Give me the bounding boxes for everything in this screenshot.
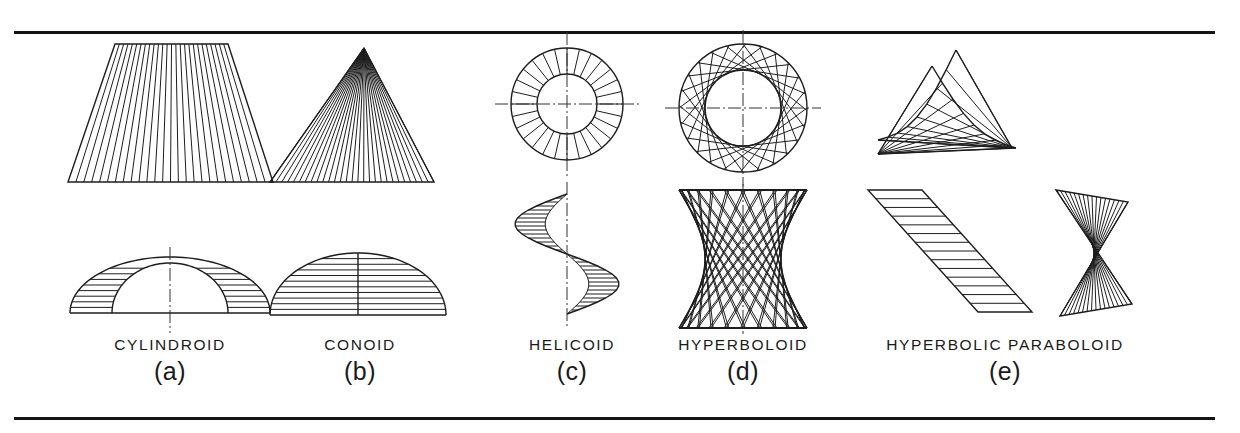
cylindroid-front-view (60, 36, 280, 196)
figure-plate: CYLINDROID (a) CONOID (b) HELICOID (c) (0, 0, 1240, 433)
helicoid-letter: (c) (487, 357, 657, 386)
bottom-border-rule (14, 417, 1215, 420)
helicoid-front-view (487, 182, 657, 334)
hyperbolic-paraboloid-letter: (e) (860, 357, 1150, 386)
hyperbolic-paraboloid-label: HYPERBOLIC PARABOLOID (860, 336, 1150, 354)
hyperboloid-letter: (d) (655, 357, 831, 386)
cylindroid-label: CYLINDROID (60, 336, 280, 354)
figure-hyperboloid: HYPERBOLOID (d) (655, 36, 831, 380)
hyperboloid-label: HYPERBOLOID (655, 336, 831, 354)
conoid-label: CONOID (262, 336, 458, 354)
conoid-caption: CONOID (b) (262, 336, 458, 386)
cylindroid-caption: CYLINDROID (a) (60, 336, 280, 386)
top-border-rule (14, 31, 1215, 34)
helicoid-top-view (487, 36, 657, 176)
figure-cylindroid: CYLINDROID (a) (60, 36, 280, 380)
conoid-letter: (b) (262, 357, 458, 386)
helicoid-label: HELICOID (487, 336, 657, 354)
cylindroid-letter: (a) (60, 357, 280, 386)
conoid-front-view (262, 36, 458, 196)
hyperboloid-caption: HYPERBOLOID (d) (655, 336, 831, 386)
figure-hyperbolic-paraboloid: HYPERBOLIC PARABOLOID (e) (860, 36, 1150, 380)
figure-helicoid: HELICOID (c) (487, 36, 657, 380)
conoid-top-view (262, 241, 458, 336)
figure-conoid: CONOID (b) (262, 36, 458, 380)
cylindroid-top-view (60, 241, 280, 336)
helicoid-caption: HELICOID (c) (487, 336, 657, 386)
hyperboloid-front-view (655, 184, 831, 334)
hyperboloid-top-view (655, 36, 831, 182)
hyperbolic-paraboloid-caption: HYPERBOLIC PARABOLOID (e) (860, 336, 1150, 386)
hyperbolic-paraboloid-front-views (860, 186, 1150, 331)
hyperbolic-paraboloid-top-view (860, 36, 1150, 161)
